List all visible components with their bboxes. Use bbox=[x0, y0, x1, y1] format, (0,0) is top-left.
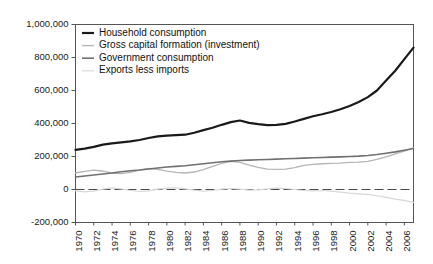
chart-container: 1,000,000800,000600,000400,000200,0000-2… bbox=[0, 0, 433, 264]
x-axis-tick-label: 1988 bbox=[237, 231, 248, 252]
line-chart: 1,000,000800,000600,000400,000200,0000-2… bbox=[0, 0, 433, 264]
x-axis-tick-label: 1994 bbox=[292, 231, 303, 252]
x-axis-tick-label: 1984 bbox=[200, 231, 211, 252]
x-axis-tick-label: 1980 bbox=[164, 231, 175, 252]
y-axis-tick-label: 200,000 bbox=[34, 150, 68, 161]
x-axis-tick-label: 1976 bbox=[127, 231, 138, 252]
legend-label: Household consumption bbox=[99, 27, 206, 38]
x-axis-tick-label: 1986 bbox=[219, 231, 230, 252]
y-axis-tick-label: 400,000 bbox=[34, 117, 68, 128]
x-axis-tick-label: 1992 bbox=[273, 231, 284, 252]
x-axis-tick-label: 1982 bbox=[182, 231, 193, 252]
y-axis-tick-label: -200,000 bbox=[31, 216, 69, 227]
chart-legend: Household consumptionGross capital forma… bbox=[82, 27, 260, 76]
x-axis-tick-group: 1970197219741976197819801982198419861988… bbox=[73, 223, 413, 252]
series-line bbox=[76, 48, 414, 150]
x-axis-tick-label: 1978 bbox=[146, 231, 157, 252]
x-axis-tick-label: 2000 bbox=[347, 231, 358, 252]
x-axis-tick-label: 1972 bbox=[91, 231, 102, 252]
x-axis-tick-label: 1974 bbox=[109, 231, 120, 252]
x-axis-tick-label: 2006 bbox=[401, 231, 412, 252]
y-axis-tick-label: 600,000 bbox=[34, 84, 68, 95]
y-axis-tick-label: 1,000,000 bbox=[26, 18, 68, 29]
x-axis-tick-label: 1970 bbox=[73, 231, 84, 252]
y-axis-tick-group: 1,000,000800,000600,000400,000200,0000-2… bbox=[26, 18, 75, 227]
legend-label: Exports less imports bbox=[99, 64, 189, 75]
legend-label: Government consumption bbox=[99, 52, 214, 63]
legend-label: Gross capital formation (investment) bbox=[99, 39, 260, 50]
y-axis-tick-label: 800,000 bbox=[34, 51, 68, 62]
y-axis-tick-label: 0 bbox=[63, 183, 68, 194]
x-axis-tick-label: 2002 bbox=[365, 231, 376, 252]
x-axis-tick-label: 1996 bbox=[310, 231, 321, 252]
x-axis-tick-label: 2004 bbox=[383, 231, 394, 252]
x-axis-tick-label: 1990 bbox=[255, 231, 266, 252]
series-line bbox=[76, 188, 414, 203]
x-axis-tick-label: 1998 bbox=[328, 231, 339, 252]
